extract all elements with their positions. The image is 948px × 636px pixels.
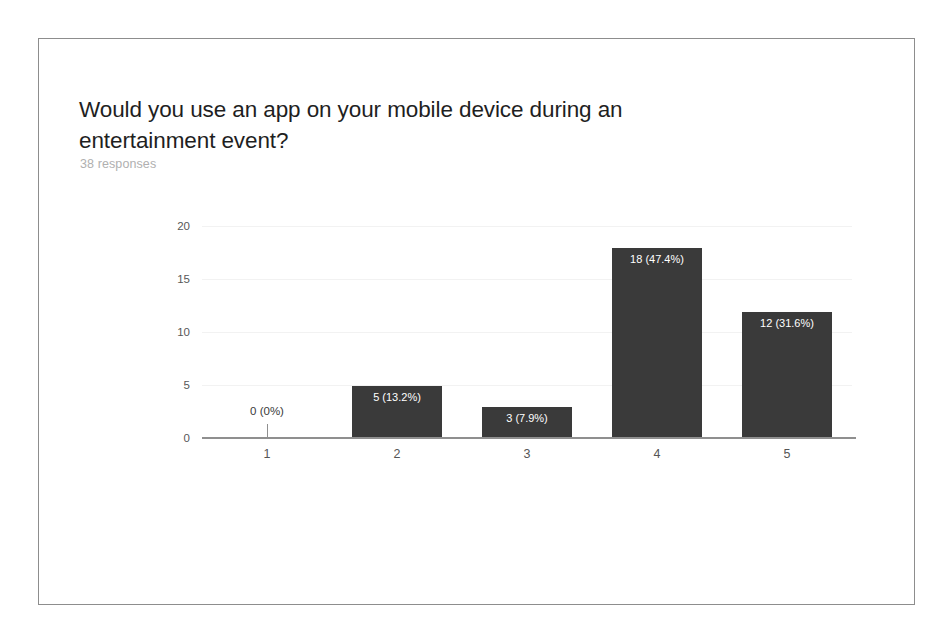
page-title: Would you use an app on your mobile devi… (79, 94, 679, 156)
y-axis-tick-label: 0 (184, 432, 190, 444)
x-axis-tick-label: 4 (592, 447, 722, 461)
zero-leader-tick (267, 424, 268, 437)
scanned-page-frame: Would you use an app on your mobile devi… (38, 38, 915, 605)
x-axis-line (202, 437, 856, 439)
bar-value-label: 5 (13.2%) (352, 391, 442, 403)
y-axis-tick-label: 15 (177, 273, 190, 285)
bar-value-label: 3 (7.9%) (482, 412, 572, 424)
x-axis-tick-label: 1 (202, 447, 332, 461)
y-axis-tick-label: 20 (177, 220, 190, 232)
bar-chart: 05101520 0 (0%)5 (13.2%)3 (7.9%)18 (47.4… (124, 219, 864, 479)
bar-column[interactable]: 0 (0%) (202, 227, 332, 439)
response-count-label: 38 responses (80, 157, 156, 171)
bar-value-label: 0 (0%) (207, 405, 327, 417)
x-axis-tick-label: 5 (722, 447, 852, 461)
bar-column[interactable]: 5 (13.2%) (332, 227, 462, 439)
bar[interactable]: 5 (13.2%) (352, 386, 442, 439)
x-axis-tick-label: 3 (462, 447, 592, 461)
bar-column[interactable]: 12 (31.6%) (722, 227, 852, 439)
x-axis-tick-label: 2 (332, 447, 462, 461)
bar-value-label: 12 (31.6%) (742, 317, 832, 329)
bar-column[interactable]: 3 (7.9%) (462, 227, 592, 439)
bar[interactable]: 12 (31.6%) (742, 312, 832, 439)
y-axis-tick-label: 5 (184, 379, 190, 391)
bar[interactable]: 3 (7.9%) (482, 407, 572, 439)
bar-value-label: 18 (47.4%) (612, 253, 702, 265)
bar-columns: 0 (0%)5 (13.2%)3 (7.9%)18 (47.4%)12 (31.… (202, 227, 852, 439)
y-axis-tick-label: 10 (177, 326, 190, 338)
bar[interactable]: 18 (47.4%) (612, 248, 702, 439)
bar-column[interactable]: 18 (47.4%) (592, 227, 722, 439)
chart-plot-area: 05101520 0 (0%)5 (13.2%)3 (7.9%)18 (47.4… (202, 227, 852, 439)
x-axis-tick-labels: 12345 (202, 447, 852, 461)
